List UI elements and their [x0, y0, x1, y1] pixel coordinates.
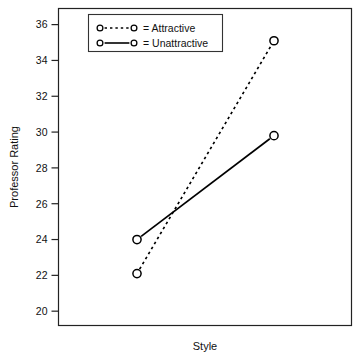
- legend-marker-swatch: [97, 25, 103, 31]
- y-tick-label: 34: [36, 54, 48, 66]
- x-axis-title: Style: [193, 340, 217, 352]
- legend-marker-swatch: [97, 40, 103, 46]
- legend-marker-swatch: [131, 40, 137, 46]
- legend-marker-swatch: [131, 25, 137, 31]
- y-tick-label: 36: [36, 18, 48, 30]
- y-tick-label: 22: [36, 269, 48, 281]
- y-tick-label: 24: [36, 233, 48, 245]
- y-tick-label: 26: [36, 198, 48, 210]
- data-point-marker: [133, 235, 141, 243]
- y-tick-label: 28: [36, 162, 48, 174]
- data-point-marker: [270, 37, 278, 45]
- chart-container: 202224262830323436 Professor Rating Styl…: [0, 0, 364, 364]
- chart-legend: = Attractive= Unattractive: [89, 15, 223, 52]
- y-axis-title: Professor Rating: [8, 126, 20, 208]
- legend-label: = Unattractive: [143, 37, 208, 49]
- y-tick-label: 20: [36, 305, 48, 317]
- y-tick-label: 32: [36, 90, 48, 102]
- chart-background: [0, 0, 364, 364]
- data-point-marker: [270, 132, 278, 140]
- y-tick-label: 30: [36, 126, 48, 138]
- legend-label: = Attractive: [143, 22, 195, 34]
- professor-rating-line-chart: 202224262830323436 Professor Rating Styl…: [0, 0, 364, 364]
- data-point-marker: [133, 269, 141, 277]
